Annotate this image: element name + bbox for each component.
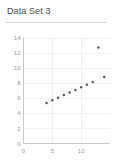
data-point [103, 76, 106, 79]
y-axis-tick-label: 0 [17, 141, 21, 147]
data-point [86, 83, 89, 86]
data-point [51, 99, 54, 102]
x-axis-tick-label: 10 [78, 148, 85, 154]
grid-lines [24, 38, 111, 144]
data-point [74, 89, 77, 92]
data-point [45, 102, 48, 105]
y-axis-tick-label: 6 [17, 95, 21, 101]
data-point [57, 96, 60, 99]
data-point [63, 94, 66, 97]
y-axis-tick-label: 4 [17, 110, 21, 116]
x-axis-tick-labels: 0510 [22, 148, 85, 154]
title-divider [6, 22, 107, 23]
y-axis-tick-label: 2 [17, 126, 21, 132]
data-points [45, 46, 105, 104]
y-axis-tick-label: 14 [14, 35, 21, 41]
scatter-chart-svg: 02468101214 0510 [0, 26, 113, 168]
axis-lines [24, 38, 111, 144]
y-axis-tick-label: 10 [14, 65, 21, 71]
x-axis-tick-label: 0 [22, 148, 26, 154]
x-axis-tick-label: 5 [51, 148, 55, 154]
data-point [97, 46, 100, 49]
y-axis-tick-label: 12 [14, 50, 21, 56]
chart-card: Data Set 3 02468101214 0510 [0, 0, 113, 168]
y-axis-tick-labels: 02468101214 [14, 35, 21, 147]
data-point [80, 86, 83, 89]
y-axis-tick-label: 8 [17, 80, 21, 86]
scatter-chart: 02468101214 0510 [0, 26, 113, 168]
page-title: Data Set 3 [7, 6, 51, 17]
data-point [91, 81, 94, 84]
data-point [68, 91, 71, 94]
